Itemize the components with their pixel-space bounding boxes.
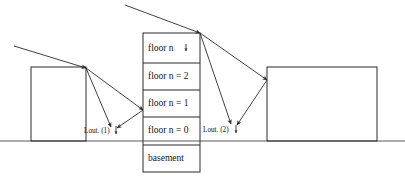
figure-canvas: floor n floor n = 2 floor n = 1 floor n … bbox=[0, 0, 405, 178]
lout-2-label: Lout. (2) bbox=[203, 126, 229, 134]
floor-label-n2: floor n = 2 bbox=[148, 71, 189, 81]
reflected-ray-center-to-lout2 bbox=[200, 33, 231, 124]
reflected-ray-center-to-lout1 bbox=[117, 110, 143, 128]
floor-label-n: floor n bbox=[148, 43, 174, 53]
center-building: floor n floor n = 2 floor n = 1 floor n … bbox=[143, 33, 200, 172]
incident-ray-left bbox=[14, 46, 86, 68]
reflected-ray-right-to-lout2 bbox=[237, 80, 267, 125]
left-building-outline bbox=[31, 67, 86, 141]
left-building bbox=[31, 67, 86, 141]
lout-2-annotation: Lout. (2) bbox=[203, 125, 236, 134]
right-building-outline bbox=[267, 67, 377, 141]
reflected-ray-center-to-right bbox=[200, 33, 267, 80]
floor-label-basement: basement bbox=[148, 153, 184, 163]
incident-ray-center bbox=[125, 5, 200, 33]
floor-label-n0: floor n = 0 bbox=[148, 125, 189, 135]
lout-1-label: Lout. (1) bbox=[84, 127, 110, 135]
lout-1-annotation: Lout. (1) bbox=[84, 126, 116, 135]
floor-label-n1: floor n = 1 bbox=[148, 98, 189, 108]
ray-diagram-svg: floor n floor n = 2 floor n = 1 floor n … bbox=[0, 0, 405, 178]
right-building bbox=[267, 67, 377, 141]
